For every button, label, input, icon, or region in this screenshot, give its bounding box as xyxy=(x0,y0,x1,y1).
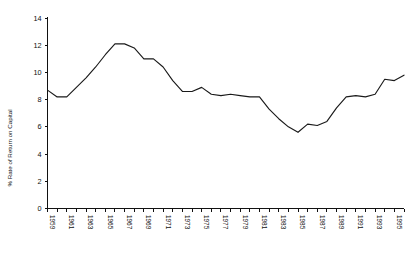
x-tick-label: 1963 xyxy=(87,215,94,230)
x-tick-label: 1975 xyxy=(203,215,210,230)
y-tick-label: 8 xyxy=(37,95,41,104)
y-axis-title: % Rate of Return on Capital xyxy=(6,109,13,186)
x-tick-label: 1985 xyxy=(299,215,306,230)
x-tick-label: 1991 xyxy=(357,215,364,230)
x-tick-label: 1979 xyxy=(242,215,249,230)
y-axis-tick-labels: 02468101214 xyxy=(33,14,41,214)
x-tick-label: 1977 xyxy=(222,215,229,230)
x-tick-label: 1987 xyxy=(319,215,326,230)
x-tick-label: 1971 xyxy=(165,215,172,230)
y-tick-label: 2 xyxy=(37,177,41,186)
x-tick-label: 1967 xyxy=(126,215,133,230)
y-tick-label: 10 xyxy=(33,68,41,77)
chart-container: % Rate of Return on Capital 02468101214 … xyxy=(0,0,416,255)
x-tick-label: 1969 xyxy=(145,215,152,230)
x-tick-label: 1993 xyxy=(376,215,383,230)
data-series-line xyxy=(48,44,405,132)
x-axis-tick-labels: 1959196119631965196719691971197319751977… xyxy=(49,215,403,230)
y-tick-label: 14 xyxy=(33,14,41,23)
line-chart: % Rate of Return on Capital 02468101214 … xyxy=(0,0,416,255)
y-tick-label: 0 xyxy=(37,204,41,213)
x-axis-tick-marks xyxy=(48,209,405,213)
x-tick-label: 1989 xyxy=(338,215,345,230)
x-tick-label: 1973 xyxy=(184,215,191,230)
y-tick-label: 4 xyxy=(37,150,41,159)
x-tick-label: 1983 xyxy=(280,215,287,230)
x-tick-label: 1995 xyxy=(396,215,403,230)
x-tick-label: 1959 xyxy=(49,215,56,230)
y-tick-label: 6 xyxy=(37,122,41,131)
x-tick-label: 1965 xyxy=(107,215,114,230)
y-tick-label: 12 xyxy=(33,41,41,50)
x-tick-label: 1961 xyxy=(68,215,75,230)
x-tick-label: 1981 xyxy=(261,215,268,230)
